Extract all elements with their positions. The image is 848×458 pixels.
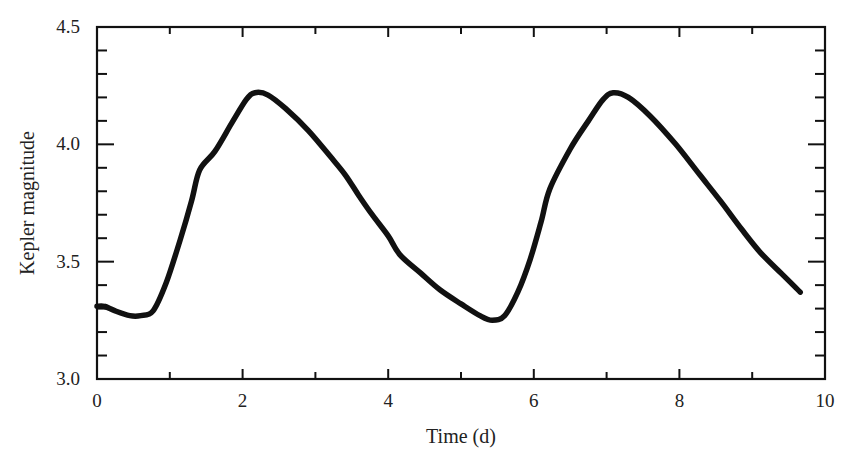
- x-tick-label: 10: [816, 390, 835, 411]
- magnitude-curve: [97, 92, 800, 320]
- plot-frame: [97, 27, 825, 379]
- light-curve-chart: 02468103.03.54.04.5 Time (d) Kepler magn…: [0, 0, 848, 458]
- x-tick-label: 6: [529, 390, 539, 411]
- axis-ticks: [97, 27, 825, 379]
- y-tick-label: 4.5: [56, 16, 80, 37]
- x-tick-label: 2: [238, 390, 248, 411]
- y-tick-label: 3.5: [56, 251, 80, 272]
- y-axis-title: Kepler magnitude: [16, 131, 39, 275]
- x-axis-title: Time (d): [426, 425, 496, 448]
- axis-tick-labels: 02468103.03.54.04.5: [56, 16, 834, 411]
- y-tick-label: 3.0: [56, 368, 80, 389]
- x-tick-label: 0: [92, 390, 102, 411]
- plot-border: [97, 27, 825, 379]
- x-tick-label: 4: [383, 390, 393, 411]
- y-tick-label: 4.0: [56, 133, 80, 154]
- x-tick-label: 8: [675, 390, 685, 411]
